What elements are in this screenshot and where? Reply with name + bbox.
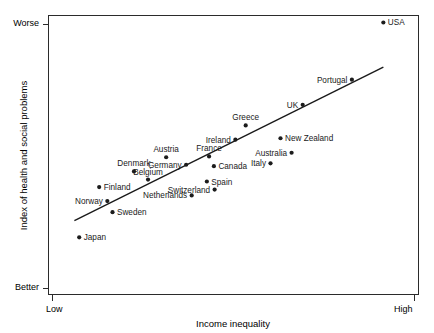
data-point-marker <box>105 199 109 203</box>
data-point-label: USA <box>388 18 405 27</box>
plot-svg: USAPortugalUKGreeceIrelandNew ZealandAus… <box>0 0 434 333</box>
data-point[interactable]: Austria <box>153 145 179 159</box>
y-axis-title: Index of health and social problems <box>18 16 29 296</box>
x-tick-label-low: Low <box>46 304 63 314</box>
data-point[interactable]: Finland <box>97 183 131 192</box>
data-point-marker <box>207 154 211 158</box>
data-point[interactable]: Australia <box>255 149 293 158</box>
data-point-marker <box>213 187 217 191</box>
plot-frame <box>49 16 419 295</box>
data-point-label: France <box>196 144 222 153</box>
data-point-marker <box>205 179 209 183</box>
data-point-marker <box>278 136 282 140</box>
data-point-label: Sweden <box>117 208 147 217</box>
data-point[interactable]: France <box>196 144 222 158</box>
data-point[interactable]: Sweden <box>110 208 147 217</box>
data-point[interactable]: Norway <box>75 197 109 206</box>
data-point-label: Portugal <box>317 76 348 85</box>
data-point-marker <box>381 20 385 24</box>
data-point-label: Belgium <box>133 168 163 177</box>
data-point[interactable]: Portugal <box>317 76 354 85</box>
data-point-label: Spain <box>211 178 232 187</box>
data-point-label: Greece <box>232 113 259 122</box>
data-point-marker <box>77 235 81 239</box>
scatter-chart: USAPortugalUKGreeceIrelandNew ZealandAus… <box>0 0 434 333</box>
data-point-label: Netherlands <box>143 191 187 200</box>
data-point-marker <box>212 164 216 168</box>
data-point-marker <box>190 193 194 197</box>
data-point-marker <box>289 151 293 155</box>
data-point-marker <box>97 185 101 189</box>
data-point[interactable]: Canada <box>212 162 248 171</box>
data-point[interactable]: UK <box>287 101 305 110</box>
data-point[interactable]: Netherlands <box>143 191 194 200</box>
data-point-label: Ireland <box>206 136 231 145</box>
data-point-marker <box>164 155 168 159</box>
data-point-label: New Zealand <box>285 134 334 143</box>
data-point-label: Japan <box>84 233 107 242</box>
x-axis-title: Income inequality <box>48 318 418 329</box>
data-point-label: Canada <box>218 162 247 171</box>
x-tick-label-high: High <box>394 304 413 314</box>
data-point-marker <box>146 177 150 181</box>
data-points-group: USAPortugalUKGreeceIrelandNew ZealandAus… <box>75 18 405 242</box>
data-point[interactable]: New Zealand <box>278 134 333 143</box>
data-point-label: Finland <box>104 183 131 192</box>
data-point-label: Norway <box>75 197 104 206</box>
data-point[interactable]: USA <box>381 18 405 27</box>
data-point-label: UK <box>287 101 299 110</box>
data-point-marker <box>268 161 272 165</box>
data-point-marker <box>110 210 114 214</box>
data-point-marker <box>350 78 354 82</box>
data-point-label: Australia <box>255 149 287 158</box>
data-point[interactable]: Japan <box>77 233 106 242</box>
data-point-marker <box>184 163 188 167</box>
data-point[interactable]: Greece <box>232 113 259 127</box>
data-point[interactable]: Italy <box>251 159 273 168</box>
data-point-marker <box>233 138 237 142</box>
data-point-marker <box>301 103 305 107</box>
data-point-label: Italy <box>251 159 267 168</box>
data-point[interactable]: Ireland <box>206 136 238 145</box>
data-point-marker <box>244 123 248 127</box>
data-point-label: Austria <box>153 145 179 154</box>
